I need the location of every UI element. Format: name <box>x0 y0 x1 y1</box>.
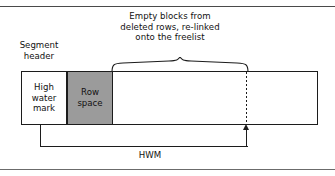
hwm-dimension-baseline <box>40 146 248 147</box>
freelist-caption: Empty blocks from deleted rows, re-linke… <box>88 11 252 43</box>
hwm-dimension-left-leg <box>40 125 41 147</box>
high-water-mark-line-2: water <box>32 93 57 104</box>
hwm-arrow-icon <box>243 124 249 130</box>
hwm-dotted-marker <box>246 72 247 124</box>
high-water-mark-line-1: High <box>32 82 57 93</box>
row-space-cell-text: Row space <box>77 87 102 108</box>
page-rule-top <box>0 6 335 7</box>
segment-hwm-diagram: Empty blocks from deleted rows, re-linke… <box>0 0 335 176</box>
high-water-mark-cell: High water mark <box>21 71 67 125</box>
segment-header-label-line-1: Segment <box>6 40 72 51</box>
hwm-dimension-label: HWM <box>120 150 180 160</box>
segment-header-label-line-2: header <box>6 51 72 62</box>
page-rule-bottom <box>0 169 335 170</box>
empty-blocks-brace <box>111 57 249 72</box>
high-water-mark-line-3: mark <box>32 103 57 114</box>
freelist-caption-line-3: onto the freelist <box>88 32 252 43</box>
hwm-dimension-right-leg <box>246 129 247 147</box>
row-space-cell: Row space <box>67 71 113 125</box>
row-space-line-1: Row <box>77 87 102 98</box>
row-space-line-2: space <box>77 98 102 109</box>
freelist-caption-line-1: Empty blocks from <box>88 11 252 22</box>
high-water-mark-cell-text: High water mark <box>32 82 57 114</box>
freelist-caption-line-2: deleted rows, re-linked <box>88 22 252 33</box>
segment-header-label: Segment header <box>6 40 72 61</box>
